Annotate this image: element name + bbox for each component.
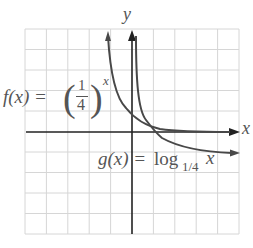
g-label-fn: log [154,148,178,170]
f-label-lhs: f(x) = [3,86,47,108]
f-paren-left: ( [63,76,76,120]
g-label-lhs: g(x) = [98,148,146,170]
g-label-base: 1/4 [182,159,199,175]
f-paren-right: ) [90,76,103,120]
f-label-exponent: x [103,73,109,89]
y-axis-arrow-icon [128,30,136,41]
x-axis-label: x [242,118,250,139]
f-label-denominator: 4 [77,96,85,114]
g-label-arg: x [206,147,214,169]
f-label-numerator: 1 [78,77,86,94]
curve-f [108,36,230,132]
y-axis-label: y [123,4,131,25]
x-axis-arrow-icon [229,128,240,136]
graph-canvas [0,0,253,248]
